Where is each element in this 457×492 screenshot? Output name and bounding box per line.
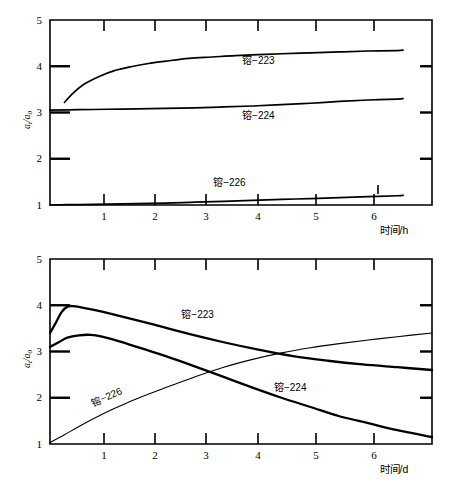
chart-svg-bottom: 1 2 3 4 5 1 2 3 4 5 6 at/a0 时间/d 镕−223: [0, 246, 457, 492]
y-axis-title-sub-0: 0: [26, 349, 34, 353]
x-tick-label: 4: [255, 210, 261, 222]
chart-panel-top: 1 2 3 4 5 1 2 3 4 5 6 at/a0 时间/h: [0, 0, 457, 246]
svg-text:at/a0: at/a0: [21, 349, 34, 368]
right-axis-ticks-bottom: [420, 305, 432, 398]
x-tick-label: 1: [101, 449, 107, 461]
top-axis-ticks: [104, 20, 374, 31]
x-tick-labels-top: 1 2 3 4 5 6: [101, 210, 377, 222]
y-tick-label: 3: [37, 345, 43, 357]
series-label-ra224: 镕−224: [274, 381, 307, 393]
y-axis-title-slash: /a: [21, 353, 32, 362]
y-tick-label: 2: [37, 152, 43, 164]
chart-svg-top: 1 2 3 4 5 1 2 3 4 5 6 at/a0 时间/h: [0, 0, 457, 246]
series-label-ra226: 镕−226: [213, 176, 246, 188]
left-axis-ticks: [50, 66, 70, 159]
series-curve-ra224: [50, 335, 432, 437]
top-axis-ticks-bottom: [104, 259, 374, 270]
x-tick-labels-bottom: 1 2 3 4 5 6: [101, 449, 377, 461]
x-tick-label: 2: [152, 449, 158, 461]
series-curve-ra226: [50, 195, 403, 205]
series-label-ra223: 镕−223: [181, 308, 214, 320]
series-curves-bottom: [50, 306, 432, 443]
y-axis-title-bottom: at/a0: [21, 349, 34, 368]
series-curve-ra226: [50, 333, 432, 443]
y-axis-title-slash: /a: [21, 114, 32, 123]
x-tick-label: 4: [255, 449, 261, 461]
bottom-axis-ticks-bottom: [104, 433, 374, 444]
y-tick-label: 2: [37, 391, 43, 403]
series-label-ra224: 镕−224: [242, 109, 275, 121]
x-tick-label: 1: [101, 210, 107, 222]
svg-text:at/a0: at/a0: [21, 110, 34, 129]
y-tick-labels-bottom: 1 2 3 4 5: [37, 253, 43, 450]
x-tick-label: 6: [371, 449, 377, 461]
y-tick-label: 4: [37, 299, 43, 311]
chart-panel-bottom: 1 2 3 4 5 1 2 3 4 5 6 at/a0 时间/d 镕−223: [0, 246, 457, 492]
series-curve-ra223: [64, 50, 403, 102]
x-tick-label: 3: [203, 210, 209, 222]
series-label-ra223: 镕−223: [242, 54, 275, 66]
y-tick-label: 5: [37, 14, 43, 26]
series-curve-ra224: [50, 99, 403, 111]
series-labels-top: 镕−223 镕−224 镕−226: [213, 54, 275, 188]
x-axis-title: 时间/h: [380, 224, 409, 236]
x-tick-label: 5: [313, 210, 319, 222]
x-tick-label: 3: [203, 449, 209, 461]
y-tick-label: 5: [37, 253, 43, 265]
left-axis-ticks-bottom: [50, 305, 70, 398]
y-tick-labels-top: 1 2 3 4 5: [37, 14, 43, 211]
x-tick-label: 6: [371, 210, 377, 222]
y-axis-title-top: at/a0: [21, 110, 34, 129]
y-tick-label: 4: [37, 60, 43, 72]
y-axis-title-sub-0: 0: [26, 110, 34, 114]
series-label-ra226: 镕−226: [89, 384, 124, 408]
plot-frame-bottom: [50, 259, 432, 444]
series-labels-bottom: 镕−223 镕−224 镕−226: [89, 308, 307, 408]
y-tick-label: 1: [37, 199, 43, 211]
x-tick-label: 2: [152, 210, 158, 222]
right-axis-ticks: [420, 66, 432, 159]
y-tick-label: 1: [37, 438, 43, 450]
x-tick-label: 5: [313, 449, 319, 461]
y-tick-label: 3: [37, 106, 43, 118]
x-axis-title: 时间/d: [380, 463, 409, 475]
